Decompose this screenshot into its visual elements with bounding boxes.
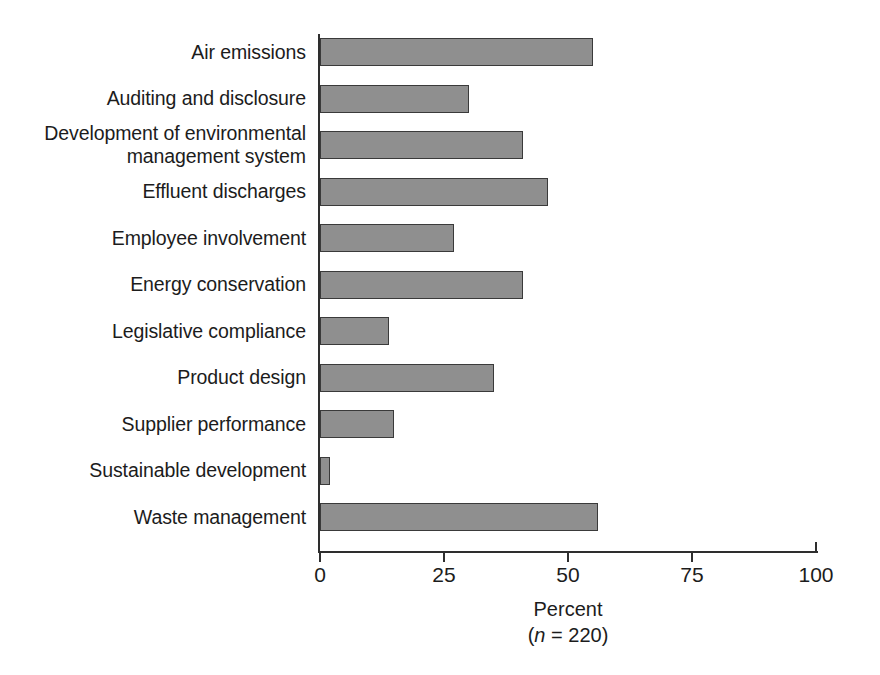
bar-row: Legislative compliance bbox=[0, 316, 880, 346]
bar bbox=[320, 224, 454, 252]
x-tick-mark bbox=[691, 553, 693, 562]
bar-row: Employee involvement bbox=[0, 223, 880, 253]
category-label: Sustainable development bbox=[6, 459, 306, 482]
category-label: Air emissions bbox=[6, 41, 306, 64]
bar-row: Auditing and disclosure bbox=[0, 84, 880, 114]
sample-size-symbol: n bbox=[534, 624, 545, 646]
x-tick-label: 50 bbox=[556, 562, 579, 587]
x-tick-mark bbox=[567, 553, 569, 562]
x-tick-mark bbox=[815, 542, 817, 552]
category-label: Product design bbox=[6, 366, 306, 389]
bar bbox=[320, 131, 523, 159]
bar bbox=[320, 503, 598, 531]
x-tick-label: 100 bbox=[798, 562, 833, 587]
category-label: Supplier performance bbox=[6, 413, 306, 436]
chart-figure: Air emissionsAuditing and disclosureDeve… bbox=[0, 0, 880, 675]
bar-row: Development of environmental management … bbox=[0, 130, 880, 160]
category-label: Development of environmental management … bbox=[6, 122, 306, 168]
x-tick-label: 25 bbox=[432, 562, 455, 587]
bar-row: Air emissions bbox=[0, 37, 880, 67]
bar bbox=[320, 38, 593, 66]
bar bbox=[320, 178, 548, 206]
category-label: Effluent discharges bbox=[6, 180, 306, 203]
category-label: Legislative compliance bbox=[6, 320, 306, 343]
category-label: Energy conservation bbox=[6, 273, 306, 296]
category-label: Waste management bbox=[6, 506, 306, 529]
bar-row: Sustainable development bbox=[0, 456, 880, 486]
bar-row: Effluent discharges bbox=[0, 177, 880, 207]
bar-row: Waste management bbox=[0, 502, 880, 532]
bar bbox=[320, 457, 330, 485]
bar bbox=[320, 85, 469, 113]
x-tick-mark bbox=[319, 553, 321, 562]
category-label: Employee involvement bbox=[6, 227, 306, 250]
bar bbox=[320, 364, 494, 392]
bar-row: Energy conservation bbox=[0, 270, 880, 300]
bar bbox=[320, 271, 523, 299]
bar bbox=[320, 410, 394, 438]
bar-row: Product design bbox=[0, 363, 880, 393]
y-axis-line bbox=[318, 34, 320, 553]
x-tick-label: 0 bbox=[314, 562, 326, 587]
x-axis-sample-size: (n = 220) bbox=[320, 622, 816, 648]
bar-row: Supplier performance bbox=[0, 409, 880, 439]
bar bbox=[320, 317, 389, 345]
x-tick-label: 75 bbox=[680, 562, 703, 587]
sample-size-value: = 220) bbox=[545, 624, 608, 646]
plot-area: Air emissionsAuditing and disclosureDeve… bbox=[0, 0, 880, 675]
x-axis-title: Percent bbox=[320, 596, 816, 622]
x-tick-mark bbox=[443, 553, 445, 562]
category-label: Auditing and disclosure bbox=[6, 87, 306, 110]
